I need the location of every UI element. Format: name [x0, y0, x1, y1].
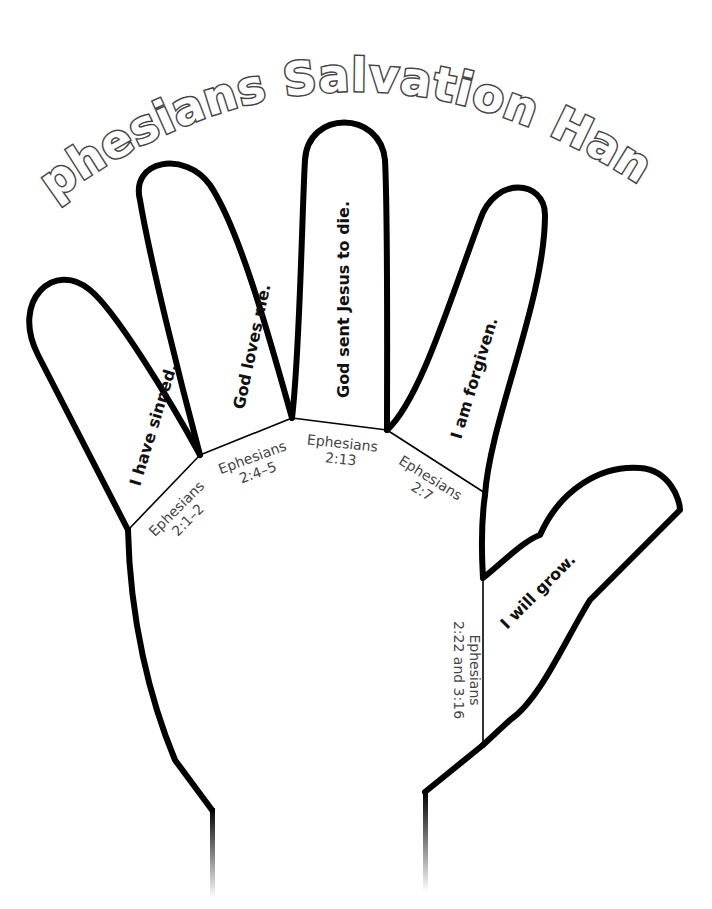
middle-reference: Ephesians 2:13	[305, 431, 379, 470]
index-statement: I am forgiven.	[447, 315, 502, 441]
pinky-reference: Ephesians 2:1–2	[146, 478, 219, 551]
index-finger-outline	[387, 188, 545, 496]
divider-middle	[292, 418, 387, 430]
pinky-finger-outline	[29, 280, 200, 530]
wrist-left-line	[210, 808, 215, 898]
salvation-hand-diagram: Ephesians Salvation Hand I have sinned. …	[0, 0, 712, 909]
thumb-statement: I will grow.	[496, 550, 579, 633]
svg-text:Ephesians: Ephesians	[467, 634, 483, 705]
page-title: Ephesians Salvation Hand	[0, 0, 663, 210]
ring-reference: Ephesians 2:4–5	[216, 438, 294, 492]
svg-text:2:22 and 3:16: 2:22 and 3:16	[451, 621, 467, 719]
ring-statement: God loves me.	[229, 282, 274, 411]
finger-base-dividers	[128, 418, 485, 745]
svg-text:2:13: 2:13	[324, 449, 357, 468]
wrist-lines	[210, 792, 428, 898]
thumb-reference: Ephesians 2:22 and 3:16	[451, 621, 483, 719]
index-reference: Ephesians 2:7	[388, 452, 465, 517]
palm-left-outline	[128, 530, 212, 810]
wrist-right-line	[423, 792, 428, 892]
middle-statement: God sent Jesus to die.	[334, 201, 353, 398]
palm-right-outline	[425, 745, 483, 792]
